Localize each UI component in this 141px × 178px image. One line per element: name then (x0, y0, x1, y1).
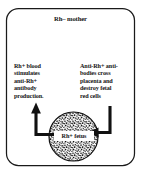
fetus-label: Rh+ fetus (54, 131, 94, 141)
rh-incompatibility-figure: Rh– mother Rh+ blood stimulates anti-Rh+… (0, 0, 141, 178)
rh-positive-blood-caption: Rh+ blood stimulates anti-Rh+ antibody p… (14, 62, 60, 99)
antibody-caption: Anti-Rh+ anti- bodies cross placenta and… (80, 62, 128, 99)
mother-label: Rh– mother (0, 15, 141, 23)
